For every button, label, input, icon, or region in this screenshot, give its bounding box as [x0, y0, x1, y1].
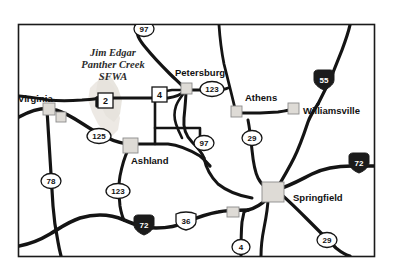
route-number-36: 36 — [182, 217, 191, 226]
route-number-4-south: 4 — [239, 243, 244, 252]
route-shield-4-north[interactable]: 4 — [152, 87, 167, 102]
route-number-72-east: 72 — [355, 159, 364, 168]
route-number-97-north: 97 — [140, 25, 149, 34]
route-number-72-west: 72 — [140, 221, 149, 230]
route-shield-125[interactable]: 125 — [87, 129, 111, 144]
park-label-line3: SFWA — [99, 71, 127, 82]
route-number-123-north: 123 — [205, 85, 219, 94]
city-label-athens: Athens — [245, 92, 277, 103]
city-marker-petersburg — [181, 83, 192, 94]
route-number-97-mid: 97 — [200, 139, 209, 148]
route-number-55: 55 — [320, 76, 329, 85]
city-marker-virginia-2 — [56, 112, 66, 122]
route-number-2: 2 — [103, 96, 108, 106]
road-map: Jim Edgar Panther Creek SFWA Virginia Pe… — [0, 0, 393, 280]
city-label-ashland: Ashland — [131, 155, 169, 166]
city-label-williamsville: Williamsville — [303, 105, 360, 116]
park-label-line1: Jim Edgar — [89, 47, 137, 58]
route-number-29-south: 29 — [323, 236, 332, 245]
route-number-29-north: 29 — [248, 134, 257, 143]
map-canvas: Jim Edgar Panther Creek SFWA Virginia Pe… — [0, 0, 393, 280]
city-label-virginia: Virginia — [18, 93, 53, 104]
route-shield-4-south[interactable]: 4 — [232, 240, 250, 255]
city-marker-ashland — [123, 138, 138, 153]
city-marker-athens — [231, 106, 242, 117]
city-marker-springfield-sw — [227, 207, 239, 217]
city-marker-springfield — [262, 182, 284, 202]
city-label-springfield: Springfield — [293, 192, 343, 203]
route-shield-78[interactable]: 78 — [41, 174, 61, 189]
city-marker-virginia — [43, 103, 55, 115]
route-shield-29-south[interactable]: 29 — [317, 233, 337, 248]
route-number-78: 78 — [47, 177, 56, 186]
route-shield-29-north[interactable]: 29 — [242, 131, 262, 146]
city-label-petersburg: Petersburg — [175, 67, 225, 78]
route-number-4-north: 4 — [157, 90, 162, 100]
route-shield-2[interactable]: 2 — [98, 93, 113, 108]
route-number-125: 125 — [92, 132, 106, 141]
route-shield-123-south[interactable]: 123 — [106, 184, 130, 199]
route-shield-123-north[interactable]: 123 — [200, 82, 224, 97]
route-number-123-south: 123 — [111, 187, 125, 196]
park-label-line2: Panther Creek — [81, 59, 145, 70]
route-shield-36[interactable]: 36 — [176, 212, 196, 230]
city-marker-williamsville — [288, 103, 299, 114]
route-shield-97-mid[interactable]: 97 — [194, 136, 214, 151]
